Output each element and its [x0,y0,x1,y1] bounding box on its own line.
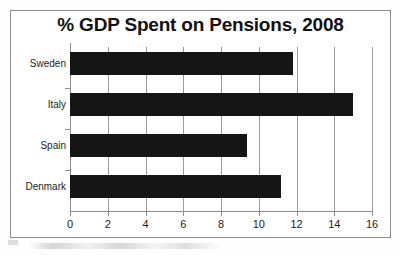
category-tick [65,88,70,89]
x-tick-label: 10 [244,218,274,230]
x-tick-label: 16 [357,218,387,230]
x-tick [297,211,298,216]
x-tick-label: 8 [206,218,236,230]
chart-figure: % GDP Spent on Pensions, 2008 SwedenItal… [0,0,400,255]
x-tick-label: 12 [282,218,312,230]
gridline [372,47,373,211]
bar-spain [70,134,247,157]
category-label-sweden: Sweden [14,58,66,69]
chart-title: % GDP Spent on Pensions, 2008 [10,14,391,36]
x-tick [146,211,147,216]
x-tick-label: 2 [93,218,123,230]
x-tick [108,211,109,216]
category-tick [65,170,70,171]
x-tick-label: 14 [319,218,349,230]
category-tick [65,129,70,130]
x-tick [372,211,373,216]
x-tick [183,211,184,216]
x-tick-label: 0 [55,218,85,230]
scan-artifact [30,243,220,249]
x-tick [221,211,222,216]
bar-denmark [70,175,281,198]
bar-italy [70,93,353,116]
gridline [297,47,298,211]
category-label-italy: Italy [14,99,66,110]
x-tick [259,211,260,216]
x-tick-label: 4 [131,218,161,230]
x-tick [334,211,335,216]
gridline [334,47,335,211]
category-label-spain: Spain [14,140,66,151]
bar-sweden [70,52,293,75]
x-tick-label: 6 [168,218,198,230]
category-label-denmark: Denmark [14,181,66,192]
scan-artifact-secondary [8,240,18,245]
x-tick [70,211,71,216]
